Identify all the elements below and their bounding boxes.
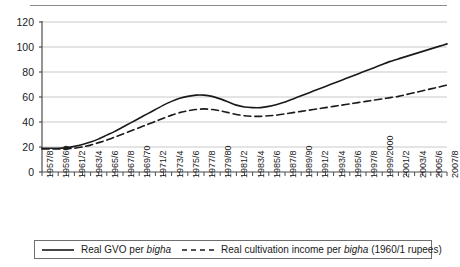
x-axis-tick-label: 2007/8 xyxy=(451,150,460,178)
x-axis-tick-label: 1977/8 xyxy=(208,150,217,178)
x-axis-tick-label: 2005/6 xyxy=(435,150,444,178)
x-axis-tick-label: 1965/6 xyxy=(111,150,120,178)
series-line-1 xyxy=(42,44,447,148)
x-axis-tick-label: 1969/70 xyxy=(143,145,152,178)
x-axis-tick-label: 1989/90 xyxy=(305,145,314,178)
x-axis-tick-label: 1971/2 xyxy=(159,150,168,178)
x-axis-tick-label: 1959/60 xyxy=(62,145,71,178)
x-axis-tick-label: 1981/2 xyxy=(240,150,249,178)
legend-swatch-solid xyxy=(41,245,75,255)
y-axis-tick-label: 20 xyxy=(6,142,34,153)
legend-swatch-dashed xyxy=(181,245,215,255)
y-axis-tick-label: 60 xyxy=(6,92,34,103)
x-axis-tick-label: 1963/4 xyxy=(95,150,104,178)
y-axis-tick-label: 0 xyxy=(6,167,34,178)
x-axis-tick-label: 1987/8 xyxy=(289,150,298,178)
x-axis-tick-label: 2001/2 xyxy=(402,150,411,178)
legend-entry-2: Real cultivation income per bigha (1960/… xyxy=(181,245,442,255)
data-series-group xyxy=(42,44,447,149)
x-axis-tick-label: 1999/2000 xyxy=(386,135,395,178)
legend-label: Real GVO per bigha xyxy=(81,245,171,255)
x-axis-tick-label: 1983/4 xyxy=(257,150,266,178)
x-axis-tick-label: 1993/4 xyxy=(338,150,347,178)
x-axis-tick-label: 1961/2 xyxy=(78,150,87,178)
x-axis-tick-label: 1967/8 xyxy=(127,150,136,178)
x-axis-tick-label: 1957/8 xyxy=(46,150,55,178)
x-axis-tick-label: 1975/6 xyxy=(192,150,201,178)
x-axis-tick-label: 1979/80 xyxy=(224,145,233,178)
x-axis-tick-label: 1991/2 xyxy=(321,150,330,178)
y-axis-tick-label: 120 xyxy=(6,17,34,28)
y-axis-tick-label: 80 xyxy=(6,67,34,78)
x-axis-tick-label: 1985/6 xyxy=(273,150,282,178)
x-axis-tick-label: 2003/4 xyxy=(419,150,428,178)
y-axis-tick-label: 40 xyxy=(6,117,34,128)
x-axis-tick-label: 1995/6 xyxy=(354,150,363,178)
chart-legend: Real GVO per bighaReal cultivation incom… xyxy=(34,240,432,259)
legend-entry-1: Real GVO per bigha xyxy=(41,245,171,255)
gridlines-group xyxy=(42,22,447,147)
x-axis-tick-label: 1997/8 xyxy=(370,150,379,178)
y-axis-tick-label: 100 xyxy=(6,42,34,53)
legend-label: Real cultivation income per bigha (1960/… xyxy=(221,245,442,255)
x-axis-tick-label: 1973/4 xyxy=(176,150,185,178)
